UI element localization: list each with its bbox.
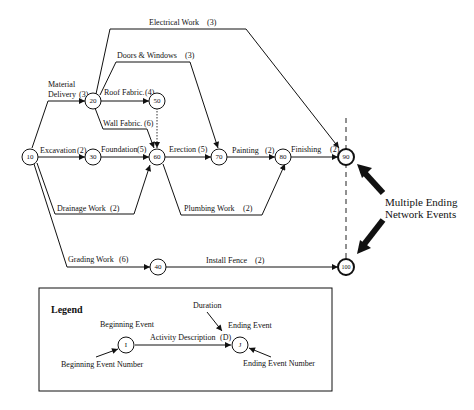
svg-text:100: 100	[342, 264, 351, 270]
svg-text:20: 20	[90, 97, 98, 105]
event-node-80: 80	[275, 149, 291, 165]
annotation-line1: Multiple Ending	[385, 196, 458, 208]
annotation-line2: Network Events	[385, 208, 456, 220]
label-material-delivery-line2: Delivery	[48, 90, 76, 99]
legend-duration-label: Duration	[193, 301, 221, 310]
duration-painting: (2)	[265, 146, 275, 155]
edge-material-delivery	[32, 101, 85, 148]
label-wall-fabric: Wall Fabric.	[103, 119, 142, 128]
legend-ending-event-number: Ending Event Number	[243, 359, 315, 368]
legend-beginning-event: Beginning Event	[100, 320, 155, 329]
legend-activity-description: Activity Description	[150, 333, 216, 342]
label-doors-windows: Doors & Windows	[117, 51, 177, 60]
event-node-20: 20	[85, 93, 101, 109]
duration-wall-fabric: (6)	[144, 119, 154, 128]
legend-duration-symbol: (D)	[220, 333, 231, 342]
event-node-100: 100	[338, 259, 354, 275]
event-node-70: 70	[211, 149, 227, 165]
network-diagram: Material Delivery (3) Electrical Work (3…	[0, 0, 474, 410]
label-foundation: Foundation	[101, 145, 137, 154]
duration-foundation: (5)	[137, 145, 147, 154]
event-node-90: 90	[338, 149, 354, 165]
legend-title: Legend	[51, 304, 83, 315]
label-painting: Painting	[232, 146, 259, 155]
label-excavation: Excavation	[40, 146, 76, 155]
svg-text:90: 90	[343, 153, 351, 161]
duration-electrical-work: (3)	[207, 18, 217, 27]
label-grading-work: Grading Work	[68, 255, 114, 264]
event-node-50: 50	[149, 93, 165, 109]
label-finishing: Finishing	[291, 145, 321, 154]
activity-labels: Material Delivery (3) Electrical Work (3…	[40, 18, 340, 265]
svg-text:50: 50	[154, 97, 162, 105]
legend-ending-event: Ending Event	[228, 321, 273, 330]
label-electrical-work: Electrical Work	[149, 18, 199, 27]
event-node-30: 30	[85, 149, 101, 165]
svg-text:30: 30	[90, 153, 98, 161]
label-material-delivery-line1: Material	[48, 80, 76, 89]
duration-doors-windows: (3)	[185, 51, 195, 60]
duration-install-fence: (2)	[255, 256, 265, 265]
edge-wall-fabric	[95, 108, 154, 148]
svg-text:J: J	[239, 341, 242, 349]
duration-plumbing-work: (2)	[243, 204, 253, 213]
label-install-fence: Install Fence	[206, 256, 248, 265]
duration-erection: (5)	[198, 145, 208, 154]
annotation-arrow-down-shaft	[362, 220, 383, 247]
svg-text:40: 40	[155, 263, 163, 271]
label-roof-fabric: Roof Fabric.	[104, 88, 144, 97]
label-erection: Erection	[169, 145, 196, 154]
label-plumbing-work: Plumbing Work	[184, 204, 235, 213]
edge-grading-work	[34, 164, 150, 267]
event-node-40: 40	[150, 259, 166, 275]
event-nodes: 10 20 30 40 50 60 70 80	[22, 93, 354, 275]
svg-text:10: 10	[27, 153, 35, 161]
legend-beginning-event-number: Beginning Event Number	[61, 360, 144, 369]
duration-drainage-work: (2)	[110, 204, 120, 213]
event-node-60: 60	[149, 149, 165, 165]
duration-grading-work: (6)	[119, 255, 129, 264]
svg-text:60: 60	[154, 153, 162, 161]
ending-events-annotation: Multiple Ending Network Events	[357, 164, 458, 254]
svg-text:80: 80	[280, 153, 288, 161]
event-node-10: 10	[22, 149, 38, 165]
label-drainage-work: Drainage Work	[57, 204, 106, 213]
legend: Legend Beginning Event Duration Ending E…	[39, 288, 332, 391]
svg-text:70: 70	[216, 153, 224, 161]
